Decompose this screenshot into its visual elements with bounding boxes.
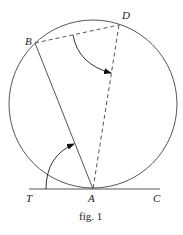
label-d: D xyxy=(122,10,130,21)
figure-caption: fig. 1 xyxy=(79,211,102,222)
angle-arrow-bda xyxy=(73,35,111,73)
chord-da-dashed xyxy=(93,25,119,189)
chord-ba xyxy=(35,43,93,189)
label-t: T xyxy=(26,193,32,204)
chord-bd-dashed xyxy=(35,25,119,43)
angle-arrow-tab xyxy=(46,144,74,189)
label-c: C xyxy=(153,193,160,204)
circle xyxy=(9,20,177,188)
label-b: B xyxy=(25,36,32,47)
label-a: A xyxy=(88,193,95,204)
